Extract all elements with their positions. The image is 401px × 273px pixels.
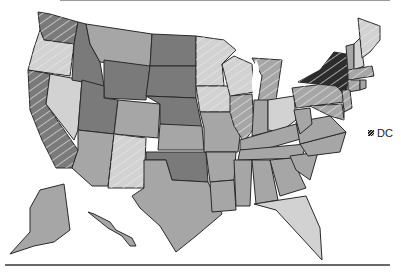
state-az <box>72 130 114 186</box>
state-la <box>210 180 236 212</box>
hatch-overlay-nm <box>108 134 146 188</box>
dc-swatch-icon <box>368 130 374 136</box>
dc-label: DC <box>377 127 393 139</box>
state-sd <box>146 66 196 98</box>
state-fl <box>254 196 322 260</box>
state-nd <box>150 34 196 66</box>
dc-legend: DC <box>368 127 393 139</box>
lake-michigan <box>252 60 259 96</box>
state-co <box>114 100 160 138</box>
us-map <box>0 0 401 273</box>
state-ks <box>158 124 204 150</box>
state-wy <box>104 60 150 100</box>
state-ms <box>234 160 252 206</box>
bottom-rule <box>5 264 390 266</box>
state-ak <box>10 184 70 254</box>
state-ri <box>360 80 366 90</box>
state-hi <box>88 212 136 246</box>
state-ar <box>206 152 236 182</box>
state-vt <box>346 44 354 72</box>
state-in <box>252 100 268 136</box>
